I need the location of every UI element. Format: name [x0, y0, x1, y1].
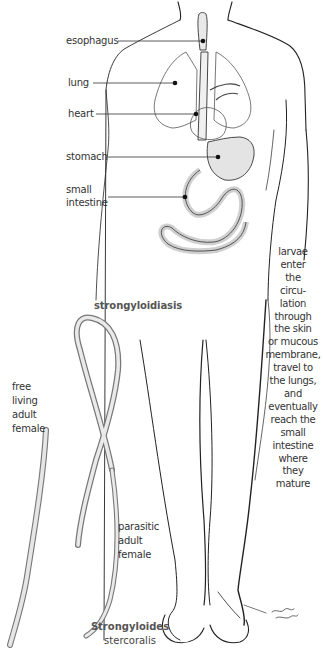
label-line: adult [12, 408, 45, 422]
caption-line: or mucous [262, 336, 323, 349]
caption-line: travel to [262, 362, 323, 375]
label-line: female [12, 422, 45, 436]
label-line: parasitic [118, 520, 159, 534]
caption-line: enter [262, 259, 323, 272]
diagram-title: strongyloidiasis [94, 300, 182, 311]
esophagus-label: esophagus [66, 34, 118, 47]
larvae-lifecycle-caption: larvae enter the circu- lation through t… [262, 246, 323, 491]
lung-label: lung [68, 76, 89, 89]
caption-line: intestine [262, 440, 323, 453]
small-intestine-line-2: intestine [66, 196, 108, 209]
caption-line: reach the [262, 414, 323, 427]
caption-line: mature [262, 478, 323, 491]
caption-line: larvae [262, 246, 323, 259]
caption-line: circu- [262, 285, 323, 298]
caption-line: the skin [262, 323, 323, 336]
caption-line: small [262, 427, 323, 440]
caption-line: and [262, 388, 323, 401]
small-intestine-line-1: small [66, 183, 108, 196]
free-living-female-label: free living adult female [12, 380, 45, 436]
caption-line: they [262, 465, 323, 478]
caption-line: the [262, 272, 323, 285]
caption-line: the lungs, [262, 375, 323, 388]
genus-name: Strongyloides [80, 620, 180, 634]
caption-line: where [262, 453, 323, 466]
label-line: adult [118, 534, 159, 548]
caption-line: through [262, 311, 323, 324]
heart-label: heart [68, 107, 94, 120]
stomach-label: stomach [66, 150, 108, 163]
label-line: female [118, 548, 159, 562]
label-line: free [12, 380, 45, 394]
caption-line: membrane, [262, 349, 323, 362]
caption-line: eventually [262, 401, 323, 414]
species-name: Strongyloides stercoralis [80, 620, 180, 648]
strongyloidiasis-diagram: esophagus lung heart stomach small intes… [0, 0, 323, 650]
label-line: living [12, 394, 45, 408]
small-intestine-label: small intestine [66, 183, 108, 209]
species-epithet: stercoralis [104, 635, 156, 646]
parasitic-female-label: parasitic adult female [118, 520, 159, 562]
caption-line: lation [262, 298, 323, 311]
